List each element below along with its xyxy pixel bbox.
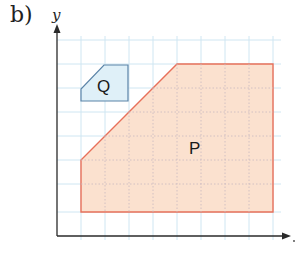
x-axis-label-fragment — [293, 240, 295, 242]
y-axis-arrow-icon — [54, 24, 61, 33]
shape-q: Q — [81, 65, 128, 101]
y-axis-label: y — [51, 6, 61, 24]
shape-p-label: P — [189, 139, 200, 158]
x-axis-arrow-icon — [282, 233, 291, 240]
shape-q-label: Q — [97, 77, 110, 96]
coordinate-diagram: P Q y — [0, 0, 296, 253]
